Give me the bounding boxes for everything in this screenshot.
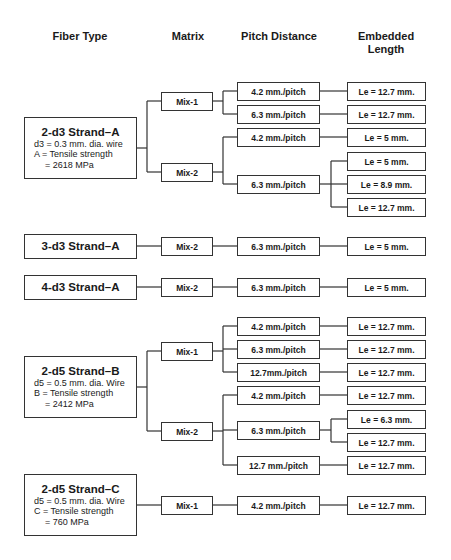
pitch-box: 6.3 mm./pitch (237, 421, 320, 440)
pitch-box: 4.2 mm./pitch (237, 82, 320, 101)
length-box: Le = 5 mm. (347, 128, 426, 147)
fiber-box-2-d5-strand-b: 2-d5 Strand–B d5 = 0.5 mm. dia. Wire B =… (24, 356, 137, 418)
pitch-box: 4.2 mm./pitch (237, 317, 320, 336)
fiber-title: 3-d3 Strand–A (42, 240, 120, 253)
length-box: Le = 5 mm. (347, 237, 426, 256)
pitch-box: 4.2 mm./pitch (237, 386, 320, 405)
pitch-box: 4.2 mm./pitch (237, 496, 320, 515)
matrix-box-mix-2: Mix-2 (161, 237, 213, 256)
length-box: Le = 5 mm. (347, 152, 426, 171)
length-box: Le = 12.7 mm. (347, 363, 426, 382)
fiber-title: 2-d5 Strand–C (42, 483, 120, 496)
length-box: Le = 12.7 mm. (347, 433, 426, 452)
length-box: Le = 12.7 mm. (347, 198, 426, 217)
pitch-box: 6.3 mm./pitch (237, 340, 320, 359)
length-box: Le = 12.7 mm. (347, 340, 426, 359)
fiber-title: 4-d3 Strand–A (42, 281, 120, 294)
matrix-box-mix-1: Mix-1 (161, 496, 213, 515)
length-box: Le = 6.3 mm. (347, 410, 426, 429)
fiber-box-4-d3-strand-a: 4-d3 Strand–A (24, 275, 137, 300)
fiber-strength-value: = 2412 MPa (34, 399, 94, 410)
pitch-box: 12.7mm./pitch (237, 363, 320, 382)
length-box: Le = 12.7 mm. (347, 82, 426, 101)
fiber-box-2-d5-strand-c: 2-d5 Strand–C d5 = 0.5 mm. dia. Wire C =… (24, 474, 137, 536)
matrix-box-mix-1: Mix-1 (161, 342, 213, 361)
fiber-diameter: d3 = 0.3 mm. dia. wire (34, 139, 123, 150)
fiber-title: 2-d5 Strand–B (42, 365, 120, 378)
fiber-strength-value: = 2618 MPa (34, 160, 94, 171)
length-box: Le = 12.7 mm. (347, 105, 426, 124)
matrix-box-mix-2: Mix-2 (161, 163, 213, 182)
length-box: Le = 8.9 mm. (347, 175, 426, 194)
matrix-box-mix-2: Mix-2 (161, 422, 213, 441)
fiber-title: 2-d3 Strand–A (42, 126, 120, 139)
length-box: Le = 12.7 mm. (347, 456, 426, 475)
fiber-strength-label: C = Tensile strength (34, 506, 114, 517)
pitch-box: 6.3 mm./pitch (237, 105, 320, 124)
pitch-box: 6.3 mm./pitch (237, 278, 320, 297)
pitch-box: 6.3 mm./pitch (237, 237, 320, 256)
fiber-strength-value: = 760 MPa (34, 517, 89, 528)
fiber-strength-label: B = Tensile strength (34, 388, 113, 399)
length-box: Le = 12.7 mm. (347, 317, 426, 336)
pitch-box: 6.3 mm./pitch (237, 175, 320, 194)
length-box: Le = 5 mm. (347, 278, 426, 297)
fiber-strength-label: A = Tensile strength (34, 149, 113, 160)
fiber-diameter: d5 = 0.5 mm. dia. Wire (34, 496, 125, 507)
fiber-diameter: d5 = 0.5 mm. dia. Wire (34, 378, 125, 389)
matrix-box-mix-2: Mix-2 (161, 278, 213, 297)
pitch-box: 4.2 mm./pitch (237, 128, 320, 147)
matrix-box-mix-1: Mix-1 (161, 92, 213, 111)
fiber-box-2-d3-strand-a: 2-d3 Strand–A d3 = 0.3 mm. dia. wire A =… (24, 117, 137, 179)
pitch-box: 12.7 mm./pitch (237, 456, 320, 475)
length-box: Le = 12.7 mm. (347, 496, 426, 515)
length-box: Le = 12.7 mm. (347, 386, 426, 405)
fiber-box-3-d3-strand-a: 3-d3 Strand–A (24, 234, 137, 259)
